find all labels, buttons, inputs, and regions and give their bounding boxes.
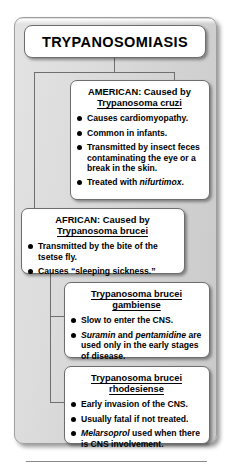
- african-header: AFRICAN: Caused by Trypanosoma brucei: [27, 215, 178, 237]
- american-header: AMERICAN: Caused by Trypanosoma cruzi: [76, 87, 203, 109]
- rhodesiense-bullets: Early invasion of the CNS. Usually fatal…: [70, 399, 203, 449]
- title-label: TRYPANOSOMIASIS: [42, 34, 188, 50]
- list-item: Common in infants.: [76, 128, 203, 138]
- list-item: Transmitted by insect feces contaminatin…: [76, 142, 203, 173]
- list-item: Causes “sleeping sickness.”: [27, 266, 178, 276]
- node-rhodesiense: Trypanosoma brucei rhodesiense Early inv…: [64, 366, 210, 444]
- connector-african-stem: [50, 274, 51, 292]
- rhodesiense-header: Trypanosoma brucei rhodesiense: [70, 373, 203, 395]
- gambiense-bullets: Slow to enter the CNS. Suramin and penta…: [70, 315, 203, 361]
- american-bullets: Causes cardiomyopathy. Common in infants…: [76, 113, 203, 187]
- african-header-line2: Trypanosoma brucei: [57, 226, 148, 236]
- african-bullets: Transmitted by the bite of the tsetse fl…: [27, 241, 178, 276]
- node-gambiense: Trypanosoma brucei gambiense Slow to ent…: [64, 282, 210, 358]
- node-african: AFRICAN: Caused by Trypanosoma brucei Tr…: [21, 208, 185, 274]
- american-header-line2: Trypanosoma cruzi: [97, 98, 182, 108]
- list-item: Causes cardiomyopathy.: [76, 113, 203, 123]
- node-title: TRYPANOSOMIASIS: [24, 25, 206, 58]
- gambiense-header-line1: Trypanosoma brucei: [91, 289, 182, 299]
- list-item: Suramin and pentamidine are used only in…: [70, 330, 203, 361]
- list-item: Transmitted by the bite of the tsetse fl…: [27, 241, 178, 262]
- rhodesiense-header-line1: Trypanosoma brucei: [91, 373, 182, 383]
- gambiense-header-line2: gambiense: [112, 300, 161, 310]
- diagram-canvas: TRYPANOSOMIASIS AMERICAN: Caused by Tryp…: [0, 0, 233, 472]
- list-item: Slow to enter the CNS.: [70, 315, 203, 325]
- connector-sub-spine: [50, 292, 51, 402]
- list-item: Melarsoprol used when there is CNS invol…: [70, 428, 203, 449]
- list-item: Treated with nifurtimox.: [76, 177, 203, 187]
- connector-top-bus: [34, 72, 174, 73]
- list-item: Early invasion of the CNS.: [70, 399, 203, 409]
- african-header-line1: AFRICAN: Caused by: [55, 215, 150, 225]
- gambiense-header: Trypanosoma brucei gambiense: [70, 289, 203, 311]
- connector-title-stem: [114, 58, 115, 72]
- list-item: Usually fatal if not treated.: [70, 414, 203, 424]
- node-american: AMERICAN: Caused by Trypanosoma cruzi Ca…: [70, 80, 210, 200]
- footer-rule: [26, 461, 207, 462]
- rhodesiense-header-line2: rhodesiense: [109, 384, 164, 394]
- american-header-line1: AMERICAN: Caused by: [88, 87, 191, 97]
